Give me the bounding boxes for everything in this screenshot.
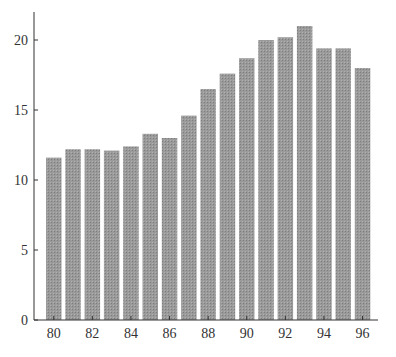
bar-85: [143, 134, 159, 320]
x-tick-label: 86: [163, 326, 177, 341]
bar-83: [104, 151, 120, 320]
bar-95: [336, 48, 352, 320]
x-tick-label: 96: [356, 326, 370, 341]
bar-94: [316, 48, 332, 320]
bar-93: [297, 26, 313, 320]
bar-80: [46, 158, 62, 320]
bar-96: [355, 68, 371, 320]
y-axis: 05101520: [14, 12, 38, 328]
bar-chart: 05101520 808284868890929496: [0, 0, 396, 357]
x-tick-label: 84: [124, 326, 138, 341]
x-tick-label: 92: [278, 326, 292, 341]
bar-91: [258, 40, 274, 320]
bar-88: [200, 89, 216, 320]
y-tick-label: 20: [14, 33, 28, 48]
x-axis: 808284868890929496: [34, 316, 378, 341]
bars: [46, 26, 370, 320]
bar-87: [181, 116, 197, 320]
bar-86: [162, 138, 178, 320]
x-tick-label: 90: [240, 326, 254, 341]
bar-90: [239, 58, 255, 320]
y-tick-label: 0: [21, 313, 28, 328]
bar-92: [278, 37, 294, 320]
bar-81: [65, 149, 81, 320]
y-tick-label: 15: [14, 103, 28, 118]
bar-89: [220, 74, 236, 320]
x-tick-label: 88: [201, 326, 215, 341]
y-tick-label: 5: [21, 243, 28, 258]
bar-84: [123, 146, 139, 320]
x-tick-label: 94: [317, 326, 331, 341]
x-tick-label: 82: [85, 326, 99, 341]
x-tick-label: 80: [47, 326, 61, 341]
y-tick-label: 10: [14, 173, 28, 188]
bar-82: [85, 149, 101, 320]
